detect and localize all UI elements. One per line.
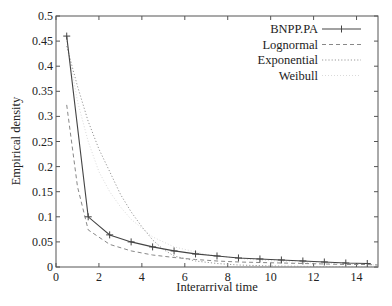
- x-tick-label: 10: [265, 270, 277, 284]
- y-tick-label: 0.3: [38, 109, 53, 123]
- chart: 02468101214 00.050.10.150.20.250.30.350.…: [0, 0, 392, 306]
- x-tick-label: 12: [308, 270, 320, 284]
- y-tick-label: 0.05: [32, 235, 53, 249]
- series-weibull: [67, 41, 378, 265]
- y-tick-label: 0.45: [32, 34, 53, 48]
- legend-item: Lognormal: [262, 38, 361, 52]
- y-tick-label: 0.5: [38, 9, 53, 23]
- legend-label: Exponential: [258, 53, 319, 67]
- y-tick-label: 0.4: [38, 59, 53, 73]
- x-axis-title: Interarrival time: [176, 280, 258, 294]
- series-lognormal: [67, 105, 378, 265]
- y-axis-title: Empirical density: [9, 96, 23, 185]
- legend-label: Weibull: [279, 69, 319, 83]
- series-lines: [63, 33, 378, 267]
- plot-area: [56, 16, 378, 267]
- legend-label: BNPP.PA: [270, 22, 318, 36]
- y-tick-label: 0.25: [32, 135, 53, 149]
- plot-frame: [56, 16, 378, 267]
- series-bnpp-pa: [67, 36, 368, 263]
- x-tick-label: 2: [96, 270, 102, 284]
- y-tick-label: 0.2: [38, 160, 53, 174]
- y-tick-label: 0.1: [38, 210, 53, 224]
- x-tick-label: 0: [53, 270, 59, 284]
- legend-item: Exponential: [258, 53, 361, 67]
- series-exponential: [67, 46, 378, 267]
- legend-item: Weibull: [279, 69, 361, 83]
- y-tick-label: 0.35: [32, 84, 53, 98]
- axis-ticks: [56, 16, 378, 267]
- x-tick-label: 14: [351, 270, 363, 284]
- legend-item: BNPP.PA: [270, 22, 361, 36]
- y-tick-label: 0: [47, 260, 53, 274]
- y-axis-tick-labels: 00.050.10.150.20.250.30.350.40.450.5: [32, 9, 53, 274]
- x-tick-label: 4: [139, 270, 145, 284]
- legend: BNPP.PALognormalExponentialWeibull: [258, 22, 361, 83]
- legend-label: Lognormal: [262, 38, 318, 52]
- y-tick-label: 0.15: [32, 185, 53, 199]
